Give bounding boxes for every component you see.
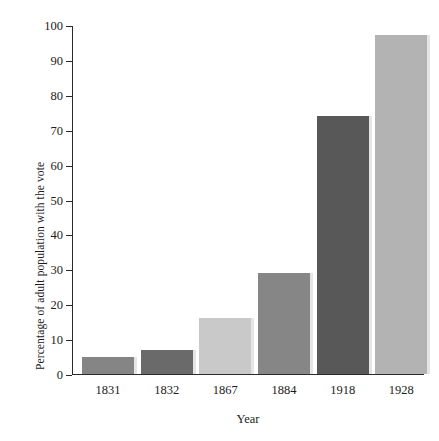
bar-1884: 1884 xyxy=(258,273,310,374)
y-axis-line xyxy=(72,26,73,375)
y-tick-mark xyxy=(66,61,72,62)
x-tick-label: 1831 xyxy=(96,383,121,398)
y-tick-label: 20 xyxy=(51,299,64,312)
y-tick-label: 80 xyxy=(51,90,64,103)
bar-1831: 1831 xyxy=(82,357,134,374)
y-tick-label: 90 xyxy=(51,55,64,68)
x-axis-title: Year xyxy=(72,412,424,427)
bar-1928: 1928 xyxy=(375,35,427,374)
y-tick-mark xyxy=(66,131,72,132)
y-tick-mark xyxy=(66,96,72,97)
x-tick-label: 1884 xyxy=(272,383,297,398)
y-tick-label: 40 xyxy=(51,229,64,242)
x-tick-label: 1928 xyxy=(389,383,414,398)
y-tick-label: 0 xyxy=(57,369,63,382)
bar-1918: 1918 xyxy=(317,116,369,374)
y-tick-mark xyxy=(66,201,72,202)
y-tick-label: 50 xyxy=(51,194,64,207)
y-tick-mark xyxy=(66,305,72,306)
plot-area: 0102030405060708090100 18311832186718841… xyxy=(72,26,424,375)
y-tick-label: 10 xyxy=(51,334,64,347)
y-tick-label: 100 xyxy=(44,20,63,33)
y-tick-label: 30 xyxy=(51,264,64,277)
y-tick-mark xyxy=(66,166,72,167)
y-tick-mark xyxy=(66,375,72,376)
bar-1867: 1867 xyxy=(199,318,251,374)
y-tick-mark xyxy=(66,270,72,271)
y-tick-mark xyxy=(66,235,72,236)
y-tick-label: 60 xyxy=(51,159,64,172)
x-axis-line xyxy=(72,374,424,375)
y-tick-mark xyxy=(66,26,72,27)
x-tick-label: 1832 xyxy=(154,383,179,398)
x-tick-label: 1918 xyxy=(330,383,355,398)
bar-1832: 1832 xyxy=(141,350,193,374)
y-tick-label: 70 xyxy=(51,124,64,137)
x-tick-label: 1867 xyxy=(213,383,238,398)
chart-page: Percentage of adult population with the … xyxy=(0,0,439,441)
y-tick-mark xyxy=(66,340,72,341)
